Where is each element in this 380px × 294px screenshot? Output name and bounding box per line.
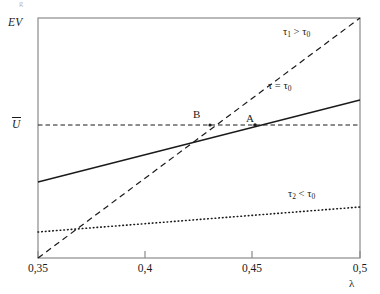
x-tick-label-2: 0,45: [242, 262, 262, 274]
tau1-relation: >: [294, 26, 300, 37]
ubar-axis-label: U: [12, 117, 21, 130]
curve-label-tau2: τ2 < τ0: [288, 188, 315, 199]
x-tick-label-1: 0,4: [138, 262, 152, 274]
x-axis-ticks: [38, 251, 360, 258]
curve-label-tau1: τ1 > τ0: [283, 26, 310, 37]
tau1-ref-subscript: 0: [306, 30, 310, 39]
chart-figure: g EV U λ 0,35 0,4 0,45 0,5 τ1 > τ0 τ =: [0, 0, 380, 294]
curve-tau2-dotted: [38, 207, 360, 232]
tau1-subscript: 1: [287, 30, 291, 39]
x-tick-label-3: 0,5: [353, 262, 367, 274]
tau2-ref-subscript: 0: [311, 192, 315, 201]
tau2-relation: <: [299, 188, 305, 199]
x-axis-title: λ: [349, 277, 355, 289]
tau0-relation: =: [275, 80, 281, 91]
y-axis-title: EV: [8, 16, 22, 28]
x-tick-label-0: 0,35: [28, 262, 48, 274]
tau0-ref-symbol: τ: [283, 80, 287, 91]
tau2-subscript: 2: [292, 192, 296, 201]
curve-label-tau0: τ = τ0: [268, 80, 291, 91]
tau0-ref-subscript: 0: [288, 84, 292, 93]
point-marker-b: [208, 123, 211, 126]
tau0-symbol: τ: [268, 80, 272, 91]
point-label-b: B: [193, 108, 200, 120]
point-label-a: A: [246, 112, 254, 124]
ubar-text: U: [12, 117, 21, 130]
chart-plot-svg: [0, 0, 380, 294]
curve-tau1-dashed: [38, 18, 360, 258]
